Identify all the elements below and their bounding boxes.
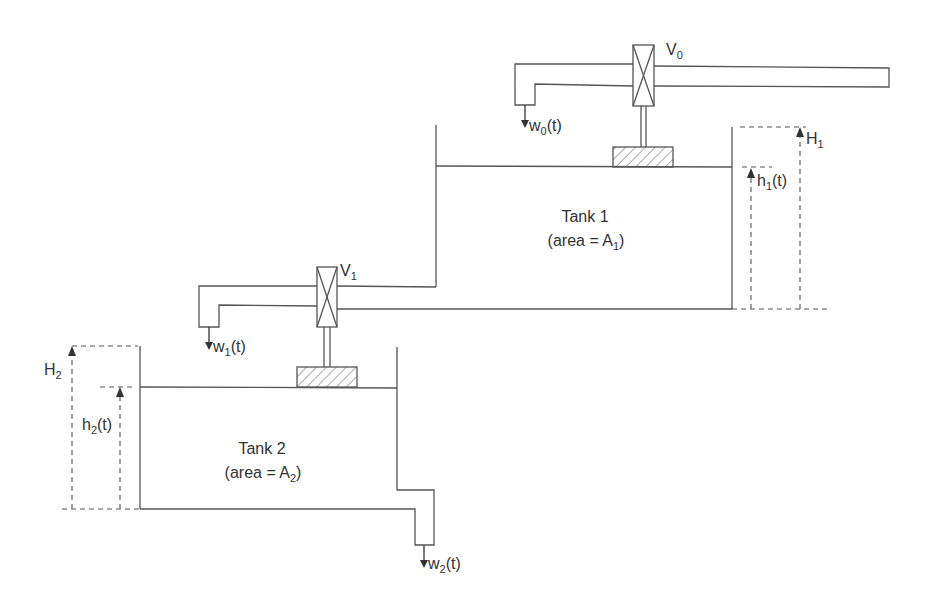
tank2-water-surface	[140, 387, 397, 388]
label-w2: w2(t)	[427, 555, 461, 575]
float-tank2	[297, 367, 357, 387]
two-tank-diagram: V0 V1 w0(t) w1(t) w2(t) H1 h1(t) H2 h2(t…	[0, 0, 938, 604]
label-w0: w0(t)	[528, 117, 562, 137]
arrow-up-icon	[68, 346, 76, 356]
valve-v0	[633, 45, 654, 106]
tank2-area: (area = A2)	[225, 464, 302, 484]
valve-v1	[317, 267, 337, 327]
tank2-title: Tank 2	[238, 440, 285, 457]
label-w1: w1(t)	[212, 338, 246, 358]
tank1-water-surface	[436, 166, 732, 167]
label-v1: V1	[340, 262, 357, 282]
tank1-title: Tank 1	[561, 208, 608, 225]
arrow-up-icon	[747, 168, 755, 178]
arrow-up-icon	[796, 127, 804, 137]
inlet-pipe	[515, 64, 889, 105]
label-H1: H1	[806, 130, 824, 150]
tank1-area: (area = A1)	[548, 232, 625, 252]
float-stem-v1	[324, 327, 330, 367]
tank1-dimensions	[732, 127, 830, 309]
label-h2: h2(t)	[82, 416, 112, 436]
float-stem-v0	[641, 106, 646, 147]
tank2-walls	[140, 346, 434, 545]
label-h1: h1(t)	[757, 172, 787, 192]
arrow-up-icon	[116, 387, 124, 397]
label-v0: V0	[666, 41, 683, 61]
label-H2: H2	[44, 361, 62, 381]
float-tank1	[613, 147, 673, 167]
